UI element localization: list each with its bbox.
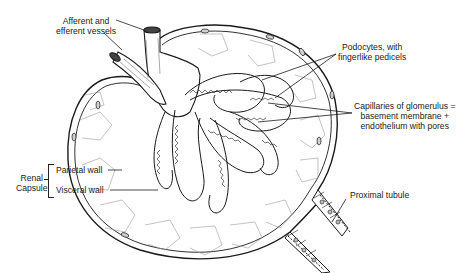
renal-capsule-brace <box>48 164 54 198</box>
vessels-label-line2: efferent vessels <box>56 26 116 36</box>
parietal-wall-label: Parietal wall <box>56 165 102 175</box>
podocytes-label-line2: fingerlike pedicels <box>338 52 406 62</box>
proximal-tubule <box>285 190 350 273</box>
afferent-efferent-vessels <box>108 27 200 117</box>
renal-capsule-label-line2: Capsule <box>16 183 48 193</box>
renal-capsule-label-line1: Renal <box>16 173 48 183</box>
parietal-nuclei <box>72 29 334 238</box>
visceral-wall-label: Visceral wall <box>56 185 104 195</box>
podocytes-label: Podocytes, with fingerlike pedicels <box>338 42 406 62</box>
renal-corpuscle-illustration <box>0 0 472 273</box>
renal-capsule <box>68 25 337 259</box>
capillaries-label-line2: basement membrane + <box>354 111 456 121</box>
proximal-tubule-label: Proximal tubule <box>350 190 409 200</box>
vessels-label-line1: Afferent and <box>56 16 116 26</box>
podocytes-label-line1: Podocytes, with <box>338 42 406 52</box>
capillaries-label-line3: endothelium with pores <box>354 121 456 131</box>
renal-capsule-label: Renal Capsule <box>16 173 48 193</box>
capillaries-label: Capillaries of glomerulus = basement mem… <box>354 101 456 131</box>
renal-capsule-brace-tip <box>44 179 48 180</box>
capillaries-label-line1: Capillaries of glomerulus = <box>354 101 456 111</box>
parietal-cell-pattern <box>80 34 325 255</box>
vessels-label: Afferent and efferent vessels <box>56 16 116 36</box>
